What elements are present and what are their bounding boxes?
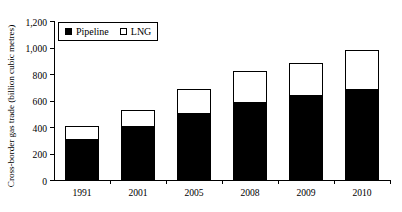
y-axis-line — [54, 21, 55, 180]
bar-group[interactable] — [65, 21, 99, 180]
bar-segment-lng[interactable] — [121, 110, 155, 127]
y-axis-tick-label: 1,000 — [25, 43, 47, 54]
x-axis-tick-label: 2010 — [352, 187, 371, 198]
y-axis-title: Cross-border gas trade (billion cubic me… — [3, 0, 19, 212]
y-axis-tick: 800 — [50, 74, 54, 75]
bar-segment-pipeline[interactable] — [121, 127, 155, 180]
filled-square-icon — [65, 28, 72, 35]
bar-segment-pipeline[interactable] — [345, 90, 379, 180]
bar-segment-lng[interactable] — [233, 71, 267, 102]
x-axis-tick-label: 2001 — [128, 187, 147, 198]
bar-segment-lng[interactable] — [289, 63, 323, 95]
bar-group[interactable] — [233, 21, 267, 180]
y-axis-tick-label: 1,200 — [25, 16, 47, 27]
y-axis-tick: 1,200 — [50, 21, 54, 22]
legend-label: LNG — [131, 26, 152, 37]
bar-segment-pipeline[interactable] — [289, 96, 323, 180]
y-axis-tick: 600 — [50, 101, 54, 102]
y-axis-tick: 0 — [50, 180, 54, 181]
bar-segment-pipeline[interactable] — [65, 140, 99, 180]
x-axis-tick — [222, 180, 223, 184]
x-axis-tick-label: 2008 — [240, 187, 259, 198]
y-axis-tick-label: 0 — [42, 175, 47, 186]
bar-segment-lng[interactable] — [345, 50, 379, 90]
x-axis-tick — [110, 180, 111, 184]
plot-area: 02004006008001,0001,200 1991200120052008… — [54, 21, 390, 180]
y-axis-tick-label: 600 — [33, 96, 47, 107]
bar-group[interactable] — [289, 21, 323, 180]
x-axis-tick-label: 1991 — [72, 187, 91, 198]
x-axis-tick — [278, 180, 279, 184]
bar-group[interactable] — [345, 21, 379, 180]
y-axis-tick-label: 800 — [33, 69, 47, 80]
bar-segment-pipeline[interactable] — [233, 103, 267, 181]
y-axis-tick-label: 200 — [33, 149, 47, 160]
bar-segment-pipeline[interactable] — [177, 114, 211, 180]
bar-group[interactable] — [177, 21, 211, 180]
x-axis-tick — [166, 180, 167, 184]
x-axis-tick — [390, 180, 391, 184]
bar-chart-figure: Cross-border gas trade (billion cubic me… — [0, 0, 402, 212]
hollow-square-icon — [120, 28, 127, 35]
y-axis-tick-label: 400 — [33, 122, 47, 133]
bar-segment-lng[interactable] — [65, 126, 99, 140]
bar-segment-lng[interactable] — [177, 89, 211, 114]
legend-entry-pipeline[interactable]: Pipeline — [65, 26, 109, 37]
x-axis-tick-label: 2005 — [184, 187, 203, 198]
bar-group[interactable] — [121, 21, 155, 180]
legend-entry-lng[interactable]: LNG — [120, 26, 152, 37]
y-axis-tick: 1,000 — [50, 48, 54, 49]
legend-label: Pipeline — [76, 26, 109, 37]
y-axis-tick: 200 — [50, 154, 54, 155]
y-axis-tick: 400 — [50, 127, 54, 128]
x-axis-tick — [334, 180, 335, 184]
chart-legend: PipelineLNG — [58, 22, 158, 41]
x-axis-tick-label: 2009 — [296, 187, 315, 198]
